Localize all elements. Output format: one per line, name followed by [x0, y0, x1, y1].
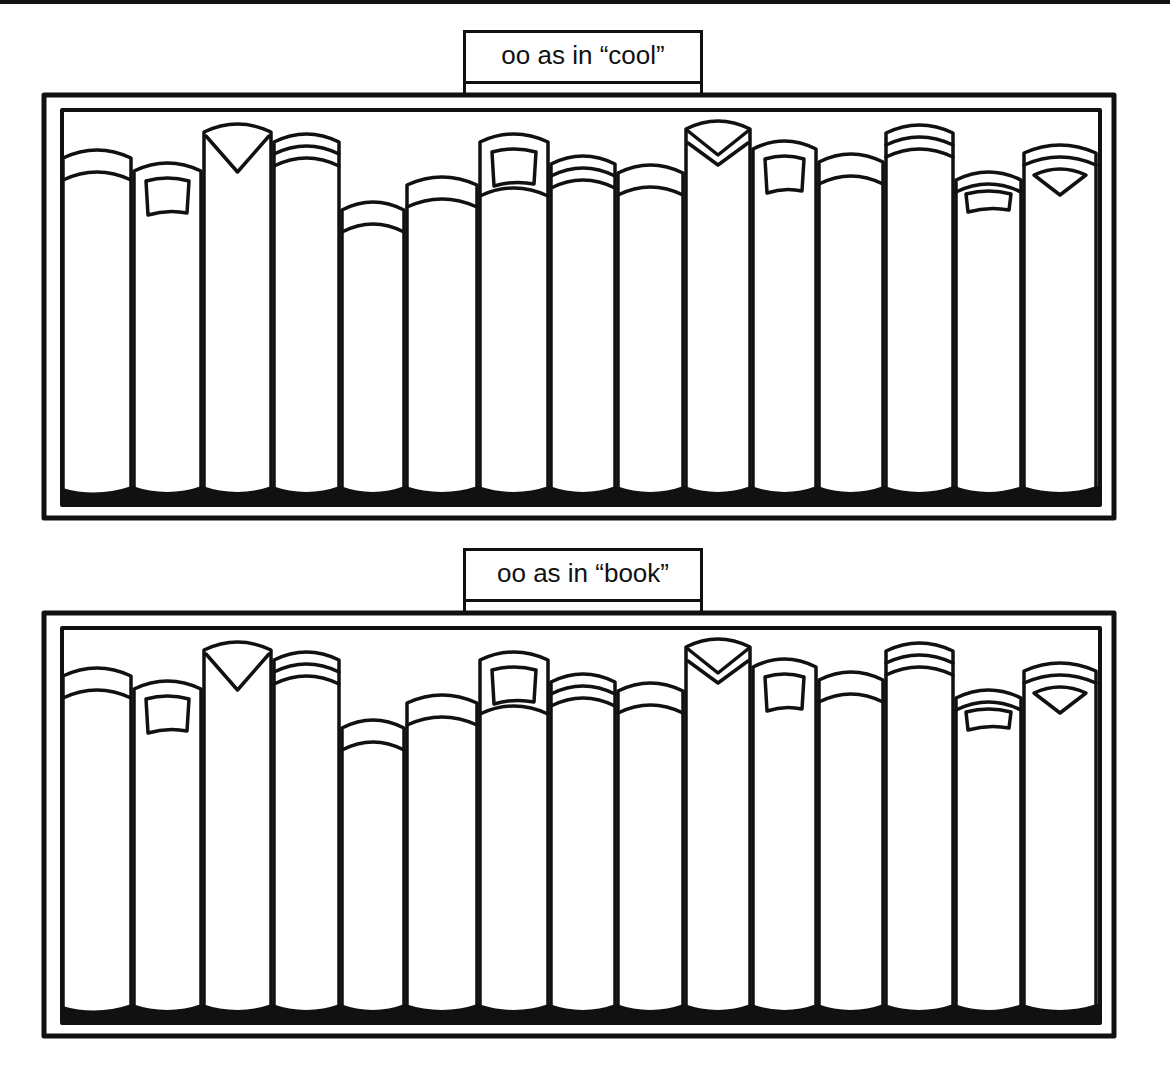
book-spine [274, 134, 339, 493]
book-spine [63, 668, 131, 1011]
book-spine [956, 690, 1021, 1011]
book-spine [274, 652, 339, 1011]
book-spine [480, 134, 548, 493]
book-spine [618, 683, 683, 1011]
book-spine [1024, 663, 1096, 1011]
book-spine [819, 672, 883, 1011]
bookshelf-drawing [0, 0, 1170, 540]
book-spine [407, 177, 477, 493]
book-spine [342, 202, 404, 493]
book-spine [1024, 145, 1096, 493]
book-spine [480, 652, 548, 1011]
book-spine [134, 163, 201, 493]
book-spine [551, 156, 615, 493]
book-spine [956, 172, 1021, 493]
book-spine [551, 674, 615, 1011]
book-spine [753, 141, 816, 493]
book-spine [204, 124, 271, 493]
book-spine [686, 121, 750, 493]
book-spine [886, 125, 953, 493]
book-spine [753, 659, 816, 1011]
book-spine [407, 695, 477, 1011]
book-spine [819, 154, 883, 493]
book-spine [63, 150, 131, 493]
book-spine [618, 165, 683, 493]
book-spine [134, 681, 201, 1011]
book-spine [686, 639, 750, 1011]
book-spine [204, 642, 271, 1011]
bookshelf-drawing [0, 518, 1170, 1058]
book-spine [342, 720, 404, 1011]
book-spine [886, 643, 953, 1011]
